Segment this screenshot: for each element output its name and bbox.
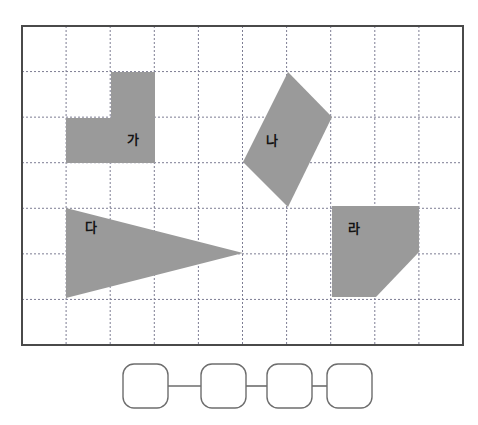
shape-da-label: 다	[85, 220, 97, 235]
answer-box-4[interactable]	[327, 364, 372, 408]
grid-background	[22, 26, 463, 345]
shape-ra-label: 라	[348, 221, 360, 236]
worksheet-canvas: 가나다라	[0, 0, 478, 425]
answer-box-1[interactable]	[123, 364, 168, 408]
answer-box-2[interactable]	[201, 364, 246, 408]
shape-na-label: 나	[266, 133, 278, 148]
worksheet-figure: 가나다라	[0, 0, 478, 425]
shape-ga-label: 가	[127, 132, 139, 147]
answer-chain-group	[123, 364, 372, 408]
answer-box-3[interactable]	[267, 364, 312, 408]
